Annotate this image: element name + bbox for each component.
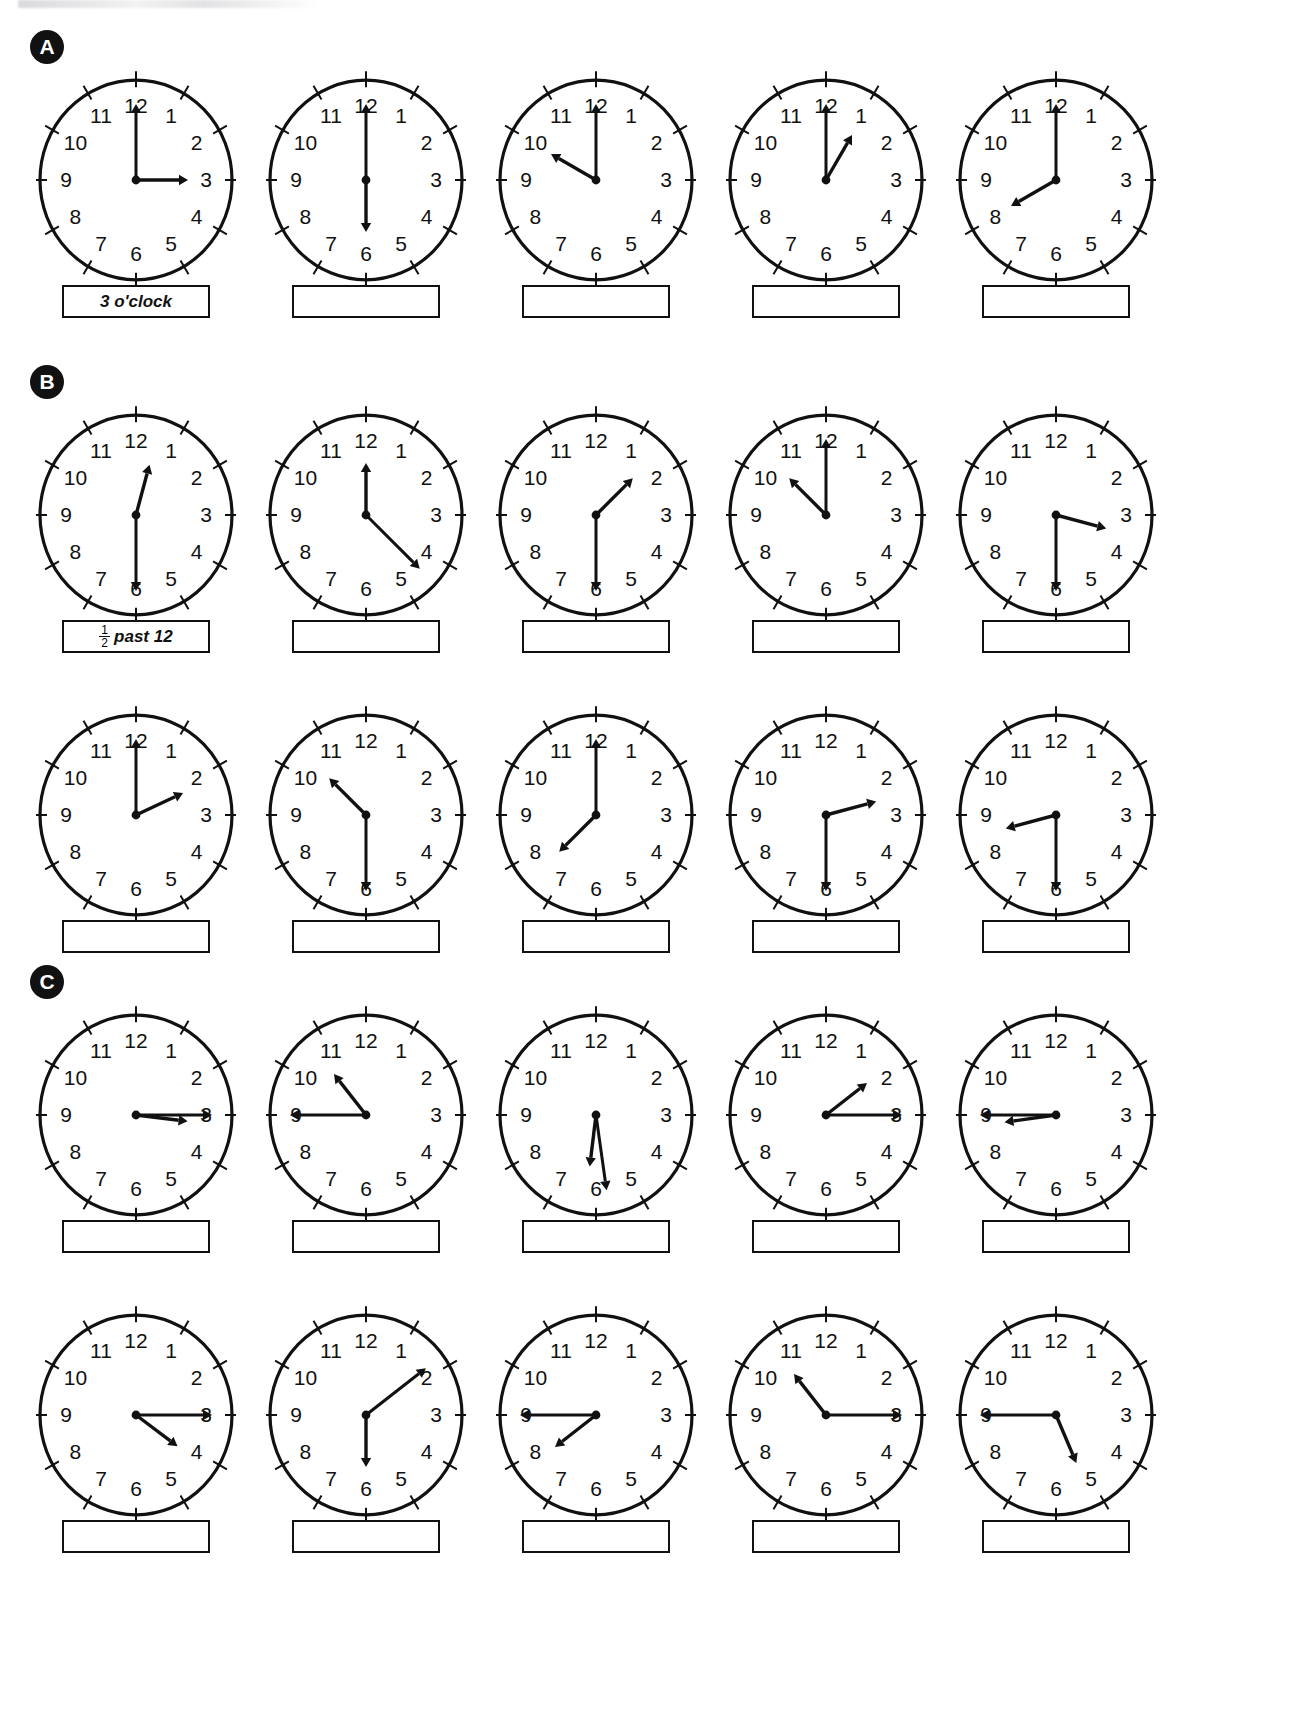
clock-a1-answer-box[interactable]: 3 o'clock [62,285,210,318]
clock-c9-answer-box[interactable] [752,1520,900,1553]
clock-a4-answer-box[interactable] [752,285,900,318]
clock-c5-dial: 121234567891011 [956,1003,1156,1228]
svg-text:6: 6 [360,242,372,265]
svg-text:4: 4 [881,840,893,863]
svg-text:9: 9 [520,168,532,191]
clock-c8-answer-box[interactable] [522,1520,670,1553]
clock-a5-dial: 121234567891011 [956,68,1156,293]
svg-text:7: 7 [785,1467,797,1490]
svg-text:7: 7 [95,1167,107,1190]
svg-text:5: 5 [855,567,867,590]
svg-text:6: 6 [820,1177,832,1200]
clock-a4: 121234567891011 [712,68,940,318]
clock-c6: 121234567891011 [22,1303,250,1553]
clock-c4-answer-box[interactable] [752,1220,900,1253]
clock-b4-answer-box[interactable] [752,620,900,653]
clock-b6: 121234567891011 [22,703,250,953]
svg-text:1: 1 [165,1339,177,1362]
svg-text:8: 8 [760,540,772,563]
clock-b5-dial: 121234567891011 [956,403,1156,628]
svg-text:2: 2 [191,766,203,789]
svg-text:2: 2 [191,1066,203,1089]
svg-text:8: 8 [70,540,82,563]
clock-b3-answer-box[interactable] [522,620,670,653]
svg-text:3: 3 [430,503,442,526]
fraction-denominator: 2 [99,636,110,649]
clock-b9-answer-box[interactable] [752,920,900,953]
svg-text:3: 3 [200,803,212,826]
svg-text:3: 3 [890,503,902,526]
clock-b8-answer-box[interactable] [522,920,670,953]
svg-text:5: 5 [625,232,637,255]
clock-c5-answer-box[interactable] [982,1220,1130,1253]
clock-c10-dial: 121234567891011 [956,1303,1156,1528]
svg-text:1: 1 [855,739,867,762]
clock-c6-answer-box[interactable] [62,1520,210,1553]
svg-text:2: 2 [881,131,893,154]
clock-c1-answer-box[interactable] [62,1220,210,1253]
svg-text:3: 3 [1120,1403,1132,1426]
svg-text:6: 6 [1050,1477,1062,1500]
svg-text:10: 10 [64,1066,87,1089]
svg-text:4: 4 [651,840,663,863]
svg-text:6: 6 [360,1477,372,1500]
clock-c10-answer-box[interactable] [982,1520,1130,1553]
svg-text:7: 7 [325,567,337,590]
svg-text:7: 7 [1015,1167,1027,1190]
clock-c2-answer-box[interactable] [292,1220,440,1253]
clock-b5-answer-box[interactable] [982,620,1130,653]
svg-text:7: 7 [325,232,337,255]
clock-c5: 121234567891011 [942,1003,1170,1253]
clock-b10-face: 121234567891011 [956,703,1156,928]
clock-a4-dial: 121234567891011 [726,68,926,293]
svg-text:11: 11 [780,1039,802,1062]
clock-c1: 121234567891011 [22,1003,250,1253]
svg-text:11: 11 [550,1039,572,1062]
svg-text:1: 1 [395,739,407,762]
svg-text:2: 2 [421,1066,433,1089]
clock-b1-dial: 121234567891011 [36,403,236,628]
svg-text:3: 3 [430,1103,442,1126]
clock-b3: 121234567891011 [482,403,710,653]
svg-text:8: 8 [70,205,82,228]
svg-text:5: 5 [395,1167,407,1190]
clock-b6-face: 121234567891011 [36,703,236,928]
svg-text:3: 3 [1120,1103,1132,1126]
svg-text:5: 5 [165,232,177,255]
clock-c3-answer-box[interactable] [522,1220,670,1253]
clock-b6-answer-box[interactable] [62,920,210,953]
svg-text:11: 11 [320,104,342,127]
svg-text:5: 5 [855,1467,867,1490]
clock-a2-answer-box[interactable] [292,285,440,318]
clock-b4-face: 121234567891011 [726,403,926,628]
svg-text:12: 12 [1044,729,1067,752]
svg-text:1: 1 [625,104,637,127]
svg-text:6: 6 [590,877,602,900]
clock-c6-dial: 121234567891011 [36,1303,236,1528]
svg-text:5: 5 [625,567,637,590]
svg-text:12: 12 [354,429,377,452]
clock-b1-answer-box[interactable]: 12past 12 [62,620,210,653]
svg-text:1: 1 [625,739,637,762]
clock-row: 12123456789101112past 121212345678910111… [0,403,1289,693]
clock-b7-answer-box[interactable] [292,920,440,953]
svg-text:3: 3 [660,1403,672,1426]
clock-a3-answer-box[interactable] [522,285,670,318]
clock-c1-dial: 121234567891011 [36,1003,236,1228]
clock-b3-face: 121234567891011 [496,403,696,628]
svg-text:1: 1 [1085,439,1097,462]
clock-c7-answer-box[interactable] [292,1520,440,1553]
svg-text:1: 1 [1085,739,1097,762]
svg-text:8: 8 [760,1440,772,1463]
svg-text:1: 1 [625,1039,637,1062]
clock-b2-answer-box[interactable] [292,620,440,653]
svg-text:6: 6 [130,1177,142,1200]
clock-b4: 121234567891011 [712,403,940,653]
svg-text:4: 4 [1111,540,1123,563]
clock-a5-answer-box[interactable] [982,285,1130,318]
svg-text:9: 9 [60,803,72,826]
clock-b10-answer-box[interactable] [982,920,1130,953]
svg-text:1: 1 [855,104,867,127]
svg-text:7: 7 [555,232,567,255]
svg-text:2: 2 [651,466,663,489]
